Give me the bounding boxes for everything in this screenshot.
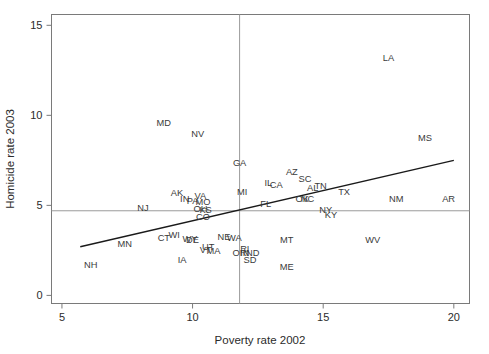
state-label: MD — [157, 118, 172, 128]
state-label: CT — [158, 233, 171, 243]
state-label: TX — [338, 187, 350, 197]
state-label: SD — [244, 255, 257, 265]
state-label: MA — [206, 246, 221, 256]
plot-canvas: LAMDNVMSGAAZSCILCATNALTXMINMARNCOKAKVAIN… — [0, 0, 489, 354]
x-axis-ticks — [62, 304, 454, 309]
state-label: AL — [307, 183, 318, 193]
reference-lines — [52, 15, 470, 304]
state-label: MS — [418, 133, 432, 143]
state-label: MN — [117, 239, 131, 249]
state-label: IA — [178, 255, 188, 265]
y-axis-title: Homicide rate 2003 — [4, 109, 16, 209]
x-tick-label: 5 — [59, 311, 65, 323]
state-label: NV — [191, 129, 205, 139]
x-tick-label: 15 — [317, 311, 329, 323]
state-label: WI — [169, 230, 180, 240]
x-tick-label: 20 — [448, 311, 460, 323]
state-label: CA — [270, 180, 284, 190]
state-label: GA — [233, 158, 247, 168]
y-tick-label: 10 — [30, 109, 42, 121]
y-tick-label: 5 — [36, 199, 42, 211]
state-label: MT — [280, 235, 294, 245]
state-label: OK — [296, 194, 310, 204]
state-label: LA — [383, 53, 395, 63]
state-label: MI — [237, 187, 247, 197]
plot-frame — [52, 15, 470, 304]
scatter-plot-figure: LAMDNVMSGAAZSCILCATNALTXMINMARNCOKAKVAIN… — [0, 0, 489, 354]
data-point-labels: LAMDNVMSGAAZSCILCATNALTXMINMARNCOKAKVAIN… — [84, 53, 455, 272]
state-label: KY — [325, 210, 337, 220]
x-axis-tick-labels: 5101520 — [59, 311, 460, 323]
state-label: FL — [260, 199, 271, 209]
state-label: CO — [196, 212, 210, 222]
state-label: WV — [365, 235, 381, 245]
y-axis-ticks — [47, 25, 52, 295]
y-tick-label: 0 — [36, 289, 42, 301]
state-label: ME — [280, 262, 294, 272]
state-label: DE — [186, 235, 199, 245]
y-tick-label: 15 — [30, 19, 42, 31]
state-label: AR — [442, 194, 455, 204]
x-tick-label: 10 — [186, 311, 198, 323]
state-label: NH — [84, 260, 97, 270]
state-label: NJ — [137, 203, 148, 213]
state-label: NM — [389, 194, 403, 204]
x-axis-title: Poverty rate 2002 — [215, 334, 306, 346]
state-label: AZ — [286, 167, 298, 177]
y-axis-tick-labels: 051015 — [30, 19, 42, 301]
state-label: WA — [227, 233, 242, 243]
